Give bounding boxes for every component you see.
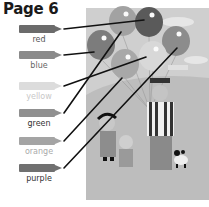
child-head [119, 135, 133, 149]
hat-shape [150, 78, 170, 83]
dark-balloon [135, 7, 163, 37]
man-head [152, 85, 168, 101]
balloon-highlight [177, 32, 182, 37]
balloon-highlight [102, 36, 107, 41]
man-legs [150, 136, 172, 170]
banner-shape [168, 65, 188, 70]
balloon-highlight [150, 13, 155, 18]
cloud-icon [184, 56, 208, 64]
balloon-highlight [154, 47, 159, 52]
cloud-icon [162, 17, 194, 27]
picture-overlay [0, 0, 209, 207]
balloon-highlight [124, 12, 129, 17]
light-balloon [139, 41, 167, 71]
left-balloon [87, 30, 115, 60]
balloon-highlight [126, 55, 131, 60]
